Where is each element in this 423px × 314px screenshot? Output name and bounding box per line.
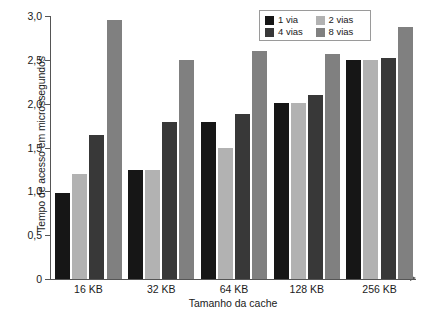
x-tick-label: 256 KB (335, 283, 423, 295)
bar[interactable] (308, 95, 323, 279)
bar[interactable] (398, 27, 413, 279)
legend-label-8-vias: 8 vias (329, 27, 354, 37)
x-axis-line (50, 279, 416, 280)
bar[interactable] (346, 60, 361, 279)
legend-label-2-vias: 2 vias (329, 15, 354, 25)
bar[interactable] (252, 51, 267, 279)
y-tick-label-wrap: 0,5 (0, 230, 42, 240)
y-tick-label: 2,5 (0, 55, 42, 65)
legend-row: 4 vias 8 vias (265, 26, 366, 38)
legend-swatch-icon-2-vias (316, 16, 325, 25)
y-tick-label: 0 (0, 274, 42, 284)
bar[interactable] (145, 170, 160, 279)
bar-chart-figure: Tempo de acesso em microssegundos 00,51,… (0, 0, 423, 314)
bar[interactable] (162, 122, 177, 279)
y-tick-label: 0,5 (0, 230, 42, 240)
bar[interactable] (107, 20, 122, 279)
bar-group-128-kb (274, 16, 341, 279)
bar[interactable] (89, 135, 104, 279)
bar[interactable] (179, 60, 194, 279)
plot-area (50, 16, 414, 279)
y-tick-label-wrap: 3,0 (0, 11, 42, 21)
legend-entry-2-vias[interactable]: 2 vias (316, 15, 367, 25)
y-tick-label-wrap: 1,5 (0, 143, 42, 153)
bar[interactable] (128, 170, 143, 279)
bar[interactable] (235, 114, 250, 279)
bar[interactable] (55, 193, 70, 279)
bar-group-64-kb (201, 16, 268, 279)
bar-group-32-kb (128, 16, 195, 279)
bar[interactable] (201, 122, 216, 279)
bar[interactable] (381, 58, 396, 279)
bar[interactable] (72, 174, 87, 279)
legend-entry-1-via[interactable]: 1 via (265, 15, 316, 25)
legend: 1 via 2 vias 4 vias 8 vias (259, 10, 371, 41)
bar[interactable] (325, 54, 340, 279)
bar-group-16-kb (55, 16, 122, 279)
y-tick-label: 3,0 (0, 11, 42, 21)
legend-label-1-via: 1 via (278, 15, 298, 25)
y-tick-label-wrap: 0 (0, 274, 42, 284)
bar-group-256-kb (346, 16, 413, 279)
bar[interactable] (218, 148, 233, 279)
y-tick-label-wrap: 2,0 (0, 99, 42, 109)
bar[interactable] (363, 60, 378, 279)
legend-swatch-icon-8-vias (316, 28, 325, 37)
y-tick-label: 1,0 (0, 186, 42, 196)
legend-entry-8-vias[interactable]: 8 vias (316, 27, 367, 37)
legend-row: 1 via 2 vias (265, 14, 366, 26)
y-tick-label-wrap: 1,0 (0, 186, 42, 196)
bar[interactable] (291, 103, 306, 279)
legend-label-4-vias: 4 vias (278, 27, 303, 37)
legend-swatch-icon-4-vias (265, 28, 274, 37)
y-tick-label: 1,5 (0, 143, 42, 153)
legend-swatch-icon-1-via (265, 16, 274, 25)
legend-entry-4-vias[interactable]: 4 vias (265, 27, 316, 37)
bar[interactable] (274, 103, 289, 279)
y-tick-label-wrap: 2,5 (0, 55, 42, 65)
y-tick-label: 2,0 (0, 99, 42, 109)
x-axis-title: Tamanho da cache (50, 297, 416, 309)
